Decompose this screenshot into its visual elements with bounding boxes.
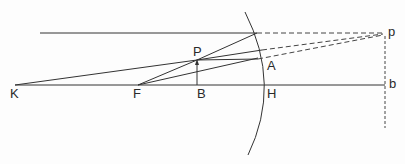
label-b: b bbox=[389, 76, 396, 91]
mirror-ray-diagram: K F B H P A p b bbox=[0, 0, 405, 164]
ray-K-P bbox=[15, 60, 197, 85]
virtual-ray-mid bbox=[262, 34, 383, 50]
label-P: P bbox=[193, 44, 202, 59]
label-H: H bbox=[267, 86, 276, 101]
ray-P-mid bbox=[197, 50, 262, 60]
diagram-svg: K F B H P A p b bbox=[0, 0, 405, 164]
label-B: B bbox=[197, 86, 206, 101]
label-F: F bbox=[133, 86, 141, 101]
label-A: A bbox=[267, 58, 276, 73]
label-p: p bbox=[388, 24, 395, 39]
label-K: K bbox=[10, 86, 19, 101]
ray-P-top bbox=[197, 33, 257, 60]
virtual-ray-A bbox=[258, 35, 383, 59]
